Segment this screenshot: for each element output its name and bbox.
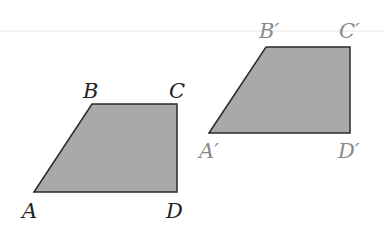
label-d-prime: D′ xyxy=(337,139,360,163)
label-c: C xyxy=(169,79,185,103)
quadrilateral-abcd xyxy=(34,104,177,192)
label-a: A xyxy=(20,199,37,223)
label-d: D xyxy=(165,199,183,223)
label-a-prime: A′ xyxy=(197,139,219,163)
translation-diagram: A B C D A′ B′ C′ D′ xyxy=(0,0,384,226)
label-b: B xyxy=(82,79,98,103)
quadrilateral-image-abcd xyxy=(209,47,350,133)
label-b-prime: B′ xyxy=(258,19,279,43)
label-c-prime: C′ xyxy=(339,19,360,43)
